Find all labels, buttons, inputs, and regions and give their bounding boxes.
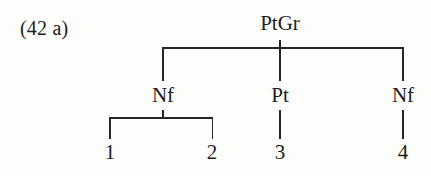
connector-stem-terminal-4 [402, 110, 404, 139]
tree-terminal-3: 3 [275, 142, 286, 163]
tree-terminal-2: 2 [207, 142, 218, 163]
tree-node-root: PtGr [260, 13, 300, 34]
tree-node-pt: Pt [271, 85, 289, 106]
tree-node-nf-right: Nf [392, 85, 414, 106]
example-number-label: (42 a) [20, 18, 68, 38]
connector-stem-terminal-1 [109, 117, 111, 139]
connector-stem-pt [279, 47, 281, 81]
connector-stem-terminal-2 [212, 117, 214, 139]
tree-diagram-figure: (42 a) PtGr Nf Pt Nf 1 2 3 4 [0, 0, 431, 176]
tree-node-nf-left: Nf [152, 85, 174, 106]
tree-terminal-4: 4 [398, 142, 409, 163]
connector-stem-nf-right [402, 47, 404, 81]
connector-bottom-bar [110, 117, 213, 119]
tree-terminal-1: 1 [105, 142, 116, 163]
connector-stem-terminal-3 [279, 110, 281, 139]
connector-top-bar [163, 47, 404, 49]
connector-stem-nf-left [162, 47, 164, 81]
